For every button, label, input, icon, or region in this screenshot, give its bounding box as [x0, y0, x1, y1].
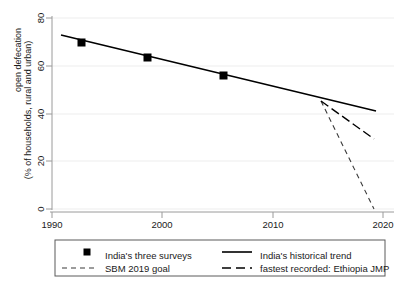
chart-figure: 80 60 40 20 0 open defecation (% of hous… [0, 0, 405, 281]
x-tick-label-2020: 2020 [372, 219, 393, 230]
data-point-survey-3 [220, 72, 227, 79]
chart-canvas: 80 60 40 20 0 open defecation (% of hous… [0, 0, 405, 281]
y-axis-label: open defecation (% of households, rural … [13, 28, 33, 179]
series-line-ethiopia-jmp [321, 101, 374, 139]
y-tick-label-0: 0 [35, 206, 46, 211]
data-point-survey-1 [78, 39, 85, 46]
x-tick-label-2000: 2000 [151, 219, 172, 230]
series-line-sbm-2019-goal [321, 101, 374, 209]
x-tick-label-2010: 2010 [262, 219, 283, 230]
legend-label-sbm-2019-goal: SBM 2019 goal [105, 263, 170, 274]
legend-square-marker-icon [84, 249, 90, 255]
y-axis: 80 60 40 20 0 [35, 13, 53, 212]
legend-label-historical-trend: India's historical trend [260, 250, 352, 261]
data-point-survey-2 [144, 54, 151, 61]
y-axis-label-line1: open defecation [13, 28, 23, 92]
y-tick-label-20: 20 [35, 156, 46, 167]
x-axis: 1990 2000 2010 2020 [41, 212, 394, 230]
y-tick-label-80: 80 [35, 13, 46, 24]
gridlines [52, 18, 394, 209]
chart-legend: India's three surveys India's historical… [55, 240, 389, 276]
series-line-historical-trend [61, 35, 376, 111]
x-tick-label-1990: 1990 [41, 219, 62, 230]
y-axis-label-line2: (% of households, rural and urban) [23, 41, 33, 180]
legend-label-three-surveys: India's three surveys [105, 250, 192, 261]
y-tick-label-60: 60 [35, 61, 46, 72]
legend-label-ethiopia-jmp: fastest recorded: Ethiopia JMP [260, 263, 389, 274]
y-tick-label-40: 40 [35, 109, 46, 120]
